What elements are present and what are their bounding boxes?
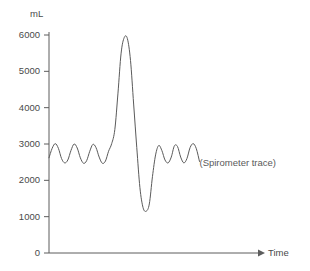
y-axis-tick-label: 5000 [19,65,40,76]
x-axis-label: Time [268,247,289,258]
spirometer-trace-line [49,36,199,212]
y-axis-ticks: 0100020003000400050006000 [19,29,49,258]
y-axis-label: mL [30,8,43,19]
y-axis-tick-label: 6000 [19,29,40,40]
y-axis-tick-label: 1000 [19,211,40,222]
y-axis-tick-label: 0 [35,247,40,258]
y-axis-tick-label: 3000 [19,138,40,149]
spirometer-trace-chart: mL Time 0100020003000400050006000 (Spiro… [0,0,310,271]
y-axis-tick-label: 2000 [19,174,40,185]
chart-annotations: (Spirometer trace) [199,157,276,168]
x-axis-arrow-icon [258,250,265,257]
y-axis-tick-label: 4000 [19,102,40,113]
trace-annotation-label: (Spirometer trace) [199,157,276,168]
